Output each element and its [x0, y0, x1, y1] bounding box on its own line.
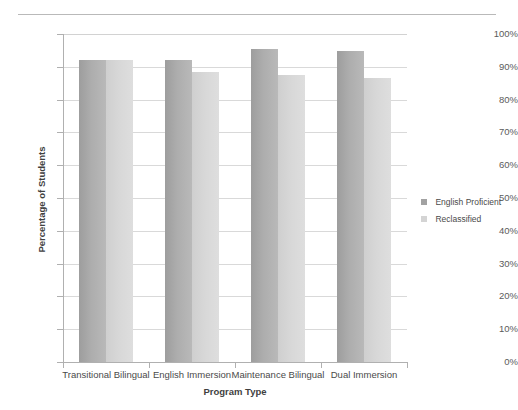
y-axis-title-holder: Percentage of Students: [24, 40, 38, 340]
bar-english-proficient: [165, 60, 192, 362]
bar-english-proficient: [251, 49, 278, 362]
y-axis-tick-label: 70%: [466, 127, 518, 137]
x-axis-title: Program Type: [63, 386, 407, 397]
y-axis-tick-label: 30%: [466, 259, 518, 269]
y-axis-tick-label: 0%: [466, 357, 518, 367]
y-axis-title: Percentage of Students: [36, 100, 47, 300]
top-divider-rule: [18, 14, 496, 15]
y-axis-tick-label: 100%: [466, 29, 518, 39]
y-axis-tick-label: 40%: [466, 226, 518, 236]
x-axis-category-label: Dual Immersion: [311, 369, 417, 381]
legend-swatch-icon: [421, 199, 427, 205]
x-axis-tick: [321, 362, 322, 368]
chart-legend: English Proficient Reclassified: [421, 192, 501, 226]
legend-item-english-proficient[interactable]: English Proficient: [421, 192, 501, 209]
bar-chart: Percentage of Students 100%90%80%70%60%5…: [0, 0, 518, 410]
bar-english-proficient: [79, 60, 106, 362]
y-axis-tick-label: 60%: [466, 160, 518, 170]
legend-label: English Proficient: [435, 197, 501, 207]
y-axis-tick-label: 80%: [466, 95, 518, 105]
bar-reclassified: [278, 75, 305, 362]
bar-reclassified: [106, 60, 133, 362]
bars-layer: [63, 34, 407, 362]
legend-swatch-icon: [421, 216, 427, 222]
bar-reclassified: [364, 78, 391, 362]
legend-label: Reclassified: [435, 214, 481, 224]
legend-item-reclassified[interactable]: Reclassified: [421, 209, 501, 226]
y-axis-tick-label: 10%: [466, 324, 518, 334]
bar-reclassified: [192, 72, 219, 362]
y-axis-tick-label: 90%: [466, 62, 518, 72]
x-axis-tick: [63, 362, 64, 368]
y-axis-tick-label: 20%: [466, 291, 518, 301]
x-axis-tick: [407, 362, 408, 368]
x-axis-tick: [235, 362, 236, 368]
x-axis-tick: [149, 362, 150, 368]
bar-english-proficient: [337, 51, 364, 362]
